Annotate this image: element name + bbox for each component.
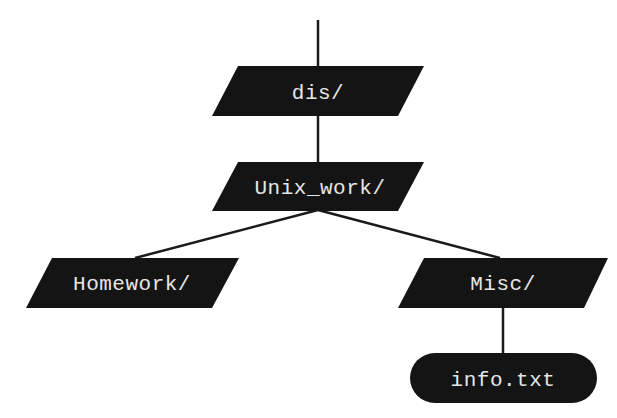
node-label-unix-work: Unix_work/ <box>254 177 385 200</box>
node-misc[interactable]: Misc/ <box>398 258 608 308</box>
node-label-misc: Misc/ <box>470 273 536 296</box>
node-info-txt[interactable]: info.txt <box>410 353 597 403</box>
edge-unix-work-to-misc <box>318 210 500 258</box>
node-dis[interactable]: dis/ <box>212 66 424 116</box>
node-label-homework: Homework/ <box>73 273 191 296</box>
diagram-svg: dis/ Unix_work/ Homework/ Misc/ info.txt <box>0 0 617 418</box>
edge-unix-work-to-homework <box>135 210 318 258</box>
node-label-dis: dis/ <box>292 82 344 105</box>
node-unix-work[interactable]: Unix_work/ <box>212 162 424 211</box>
directory-tree-diagram: dis/ Unix_work/ Homework/ Misc/ info.txt <box>0 0 617 418</box>
node-homework[interactable]: Homework/ <box>26 258 239 308</box>
node-label-info-txt: info.txt <box>451 369 556 392</box>
